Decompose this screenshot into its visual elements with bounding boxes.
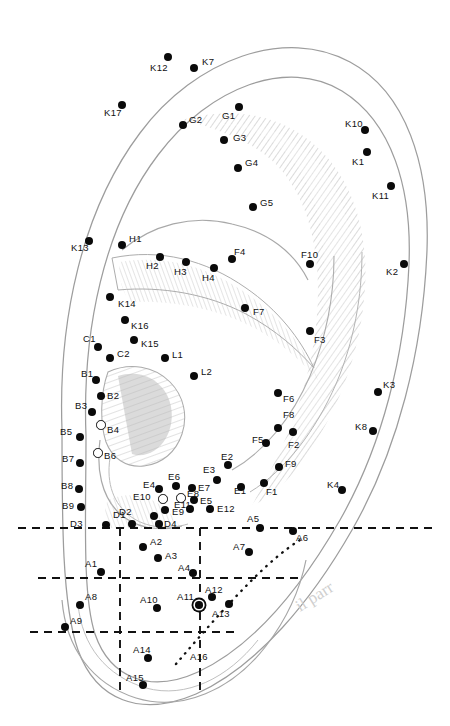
- acupoint-marker-b6[interactable]: [93, 448, 103, 458]
- acupoint-marker-b4[interactable]: [96, 420, 106, 430]
- acupoint-marker-a11[interactable]: [195, 601, 203, 609]
- intertragic-notch: [105, 495, 180, 528]
- acupoint-marker-e8[interactable]: [176, 493, 186, 503]
- ear-point-chart: il parr K12K7K17G2G1G3G4G5K10K1K11K2K13H…: [0, 0, 450, 726]
- measurement-grid: [18, 528, 432, 690]
- tragus-region: [102, 367, 185, 467]
- lobule-inner: [78, 604, 258, 691]
- acupoint-marker-e10[interactable]: [158, 494, 168, 504]
- concha-ridge: [112, 255, 318, 380]
- ear-anatomy-illustration: il parr: [0, 0, 450, 726]
